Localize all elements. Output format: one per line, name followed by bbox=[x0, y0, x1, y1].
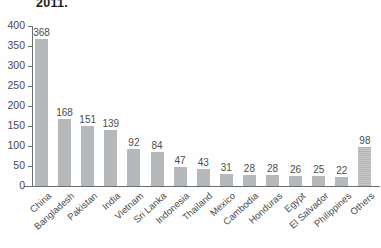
bar-value-label: 92 bbox=[128, 137, 139, 148]
bar-group: 151 bbox=[81, 26, 94, 186]
bar-group: 31 bbox=[220, 26, 233, 186]
bar-group: 92 bbox=[127, 26, 140, 186]
bar-group: 43 bbox=[197, 26, 210, 186]
bar-group: 47 bbox=[174, 26, 187, 186]
y-axis-tick-label: 50 bbox=[13, 159, 25, 171]
chart-title: 2011. bbox=[36, 0, 68, 10]
bar-value-label: 84 bbox=[151, 140, 162, 151]
bar bbox=[35, 39, 48, 186]
bar-group: 28 bbox=[266, 26, 279, 186]
bar-group: 368 bbox=[35, 26, 48, 186]
y-axis-tick-label: 0 bbox=[19, 179, 25, 191]
bar-value-label: 98 bbox=[359, 135, 370, 146]
bar-value-label: 47 bbox=[175, 155, 186, 166]
y-axis-tick-label: 350 bbox=[7, 39, 25, 51]
y-axis-tick-label: 400 bbox=[7, 19, 25, 31]
y-axis-tick-label: 200 bbox=[7, 99, 25, 111]
bar-group: 84 bbox=[151, 26, 164, 186]
bar-value-label: 43 bbox=[198, 157, 209, 168]
y-axis-tick-label: 300 bbox=[7, 59, 25, 71]
bar-group: 22 bbox=[335, 26, 348, 186]
bar-chart: 2011. 400350300250200150100500 368168151… bbox=[0, 0, 381, 248]
bar-value-label: 151 bbox=[79, 114, 96, 125]
y-axis-tick-mark bbox=[28, 186, 33, 187]
bar-group: 168 bbox=[58, 26, 71, 186]
y-axis-tick-label: 100 bbox=[7, 139, 25, 151]
bar-value-label: 168 bbox=[56, 107, 73, 118]
y-axis-tick-label: 250 bbox=[7, 79, 25, 91]
bar-value-label: 139 bbox=[102, 118, 119, 129]
bar-group: 25 bbox=[312, 26, 325, 186]
bar-group: 26 bbox=[289, 26, 302, 186]
y-axis-tick-label: 150 bbox=[7, 119, 25, 131]
bar-value-label: 368 bbox=[33, 27, 50, 38]
bar-group: 28 bbox=[243, 26, 256, 186]
